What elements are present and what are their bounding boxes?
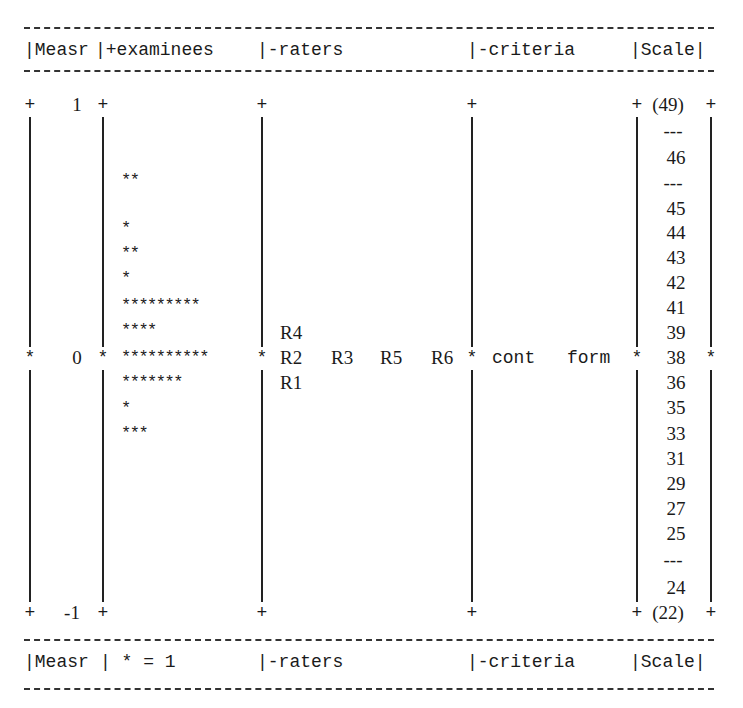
scale-top-label: (49) xyxy=(652,95,684,115)
footer-raters: |-raters xyxy=(257,652,343,672)
header-raters: |-raters xyxy=(257,40,343,60)
top-marker-col2: + xyxy=(98,95,109,115)
top-marker-col3: + xyxy=(257,95,268,115)
bottom-marker-col3: + xyxy=(257,603,268,623)
criteria-left-line-upper xyxy=(471,117,473,347)
measure-label-zero: 0 xyxy=(72,348,82,368)
footer-measr: |Measr xyxy=(24,652,89,672)
measure-label-top: 1 xyxy=(72,95,82,115)
rater-r4: R4 xyxy=(280,323,302,343)
measure-label-bottom: -1 xyxy=(64,603,80,623)
rater-r5: R5 xyxy=(380,348,402,368)
examinees-left-line-lower xyxy=(102,370,104,602)
scale-category: 41 xyxy=(667,298,686,318)
examinee-row: **** xyxy=(121,321,156,341)
examinee-row: ** xyxy=(121,244,138,264)
mid-marker-col6: * xyxy=(706,348,717,368)
examinee-row: ** xyxy=(121,171,138,191)
scale-category: 44 xyxy=(667,223,686,243)
raters-left-line-upper xyxy=(261,117,263,347)
examinee-row: * xyxy=(121,219,130,239)
rater-r2: R2 xyxy=(280,348,302,368)
mid-marker-col2: * xyxy=(98,348,109,368)
bottom-marker-col2: + xyxy=(98,603,109,623)
top-marker-col4: + xyxy=(467,95,478,115)
footer-legend: | * = 1 xyxy=(100,652,176,672)
footer-scale: |Scale| xyxy=(630,652,706,672)
header-bottom-rule xyxy=(24,70,714,72)
header-examinees: |+examinees xyxy=(95,40,214,60)
criterion-form: form xyxy=(567,348,610,368)
scale-category: 25 xyxy=(667,524,686,544)
top-marker-col5: + xyxy=(632,95,643,115)
criteria-left-line-lower xyxy=(471,370,473,602)
mid-marker-col4: * xyxy=(467,348,478,368)
scale-category: 31 xyxy=(667,449,686,469)
scale-right-line-upper xyxy=(710,117,712,347)
footer-top-rule xyxy=(24,639,714,641)
header-top-rule xyxy=(24,27,714,29)
bottom-marker-col5: + xyxy=(632,603,643,623)
scale-category: 38 xyxy=(667,348,686,368)
footer-criteria: |-criteria xyxy=(467,652,575,672)
mid-marker-col1: * xyxy=(25,348,36,368)
scale-category: 24 xyxy=(667,578,686,598)
examinee-row: ********* xyxy=(121,296,199,316)
scale-category: 33 xyxy=(667,424,686,444)
top-marker-col1: + xyxy=(25,95,36,115)
scale-category: 46 xyxy=(667,148,686,168)
measr-left-line-upper xyxy=(29,117,31,347)
rater-r1: R1 xyxy=(280,373,302,393)
bottom-marker-col6: + xyxy=(706,603,717,623)
rater-r3: R3 xyxy=(331,348,353,368)
scale-threshold: --- xyxy=(664,550,683,570)
header-measr: |Measr xyxy=(24,40,89,60)
examinee-row: * xyxy=(121,269,130,289)
examinee-row: ********** xyxy=(121,348,208,368)
scale-left-line-upper xyxy=(636,117,638,347)
rater-r6: R6 xyxy=(431,348,453,368)
scale-category: 29 xyxy=(667,474,686,494)
raters-left-line-lower xyxy=(261,370,263,602)
scale-category: 39 xyxy=(667,323,686,343)
examinee-row: * xyxy=(121,399,130,419)
scale-bottom-label: (22) xyxy=(652,603,684,623)
footer-bottom-rule xyxy=(24,688,714,690)
scale-threshold: --- xyxy=(664,173,683,193)
criterion-cont: cont xyxy=(492,348,535,368)
mid-marker-col3: * xyxy=(257,348,268,368)
examinees-left-line-upper xyxy=(102,117,104,347)
scale-category: 27 xyxy=(667,499,686,519)
mid-marker-col5: * xyxy=(632,348,643,368)
bottom-marker-col1: + xyxy=(25,603,36,623)
bottom-marker-col4: + xyxy=(467,603,478,623)
top-marker-col6: + xyxy=(706,95,717,115)
scale-category: 35 xyxy=(667,398,686,418)
scale-category: 36 xyxy=(667,373,686,393)
scale-threshold: --- xyxy=(664,121,683,141)
scale-right-line-lower xyxy=(710,370,712,602)
scale-left-line-lower xyxy=(636,370,638,602)
scale-category: 45 xyxy=(667,199,686,219)
examinee-row: *** xyxy=(121,424,147,444)
header-scale: |Scale| xyxy=(630,40,706,60)
header-criteria: |-criteria xyxy=(467,40,575,60)
scale-category: 42 xyxy=(667,273,686,293)
scale-category: 43 xyxy=(667,248,686,268)
examinee-row: ******* xyxy=(121,373,182,393)
measr-left-line-lower xyxy=(29,370,31,602)
